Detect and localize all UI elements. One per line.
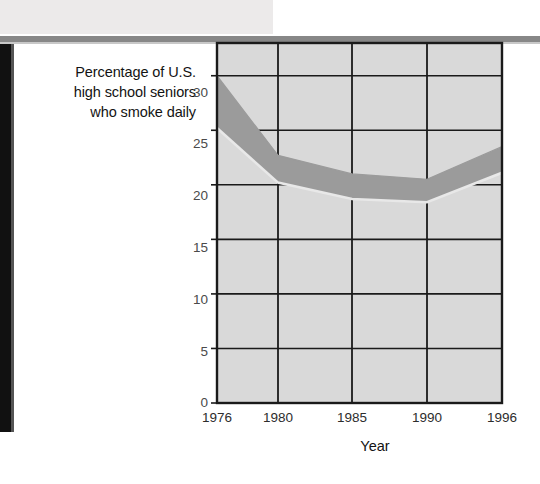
y-tick-label-5: 5: [178, 344, 208, 359]
y-tick-label-30: 30: [178, 85, 208, 100]
x-tick-label-1990: 1990: [397, 410, 457, 425]
y-tick-label-20: 20: [178, 188, 208, 203]
y-tick-label-10: 10: [178, 292, 208, 307]
x-tick-label-1996: 1996: [472, 410, 532, 425]
x-tick-label-1980: 1980: [248, 410, 308, 425]
x-axis-title: Year: [315, 438, 435, 454]
line-area-chart: 30 25 20 15 10 5 0 1976 1980 1985 1990 1…: [0, 0, 540, 484]
x-tick-label-1976: 1976: [187, 410, 247, 425]
y-tick-label-15: 15: [178, 240, 208, 255]
scanned-page: Percentage of U.S. high school seniors w…: [0, 0, 540, 484]
y-tick-label-0: 0: [178, 395, 208, 410]
x-tick-label-1985: 1985: [322, 410, 382, 425]
y-tick-label-25: 25: [178, 136, 208, 151]
